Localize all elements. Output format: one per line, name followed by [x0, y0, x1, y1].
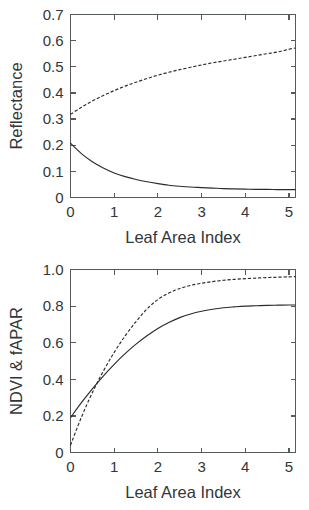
y-axis-tick-label: 0.7 [43, 6, 64, 23]
y-axis-tick-label: 0.2 [43, 136, 64, 153]
x-axis-tick-label: 3 [197, 203, 205, 220]
x-axis-tick-label: 5 [285, 458, 293, 475]
data-series-red-reflectance [71, 143, 296, 190]
y-axis-tick-label: 0.8 [43, 297, 64, 314]
y-axis-tick-label: 0.6 [43, 334, 64, 351]
y-axis-tick-label: 0.6 [43, 32, 64, 49]
data-series-ndvi [71, 305, 296, 418]
chart-panel-reflectance: 00.10.20.30.40.50.60.7012345Leaf Area In… [0, 0, 309, 255]
x-axis-tick-label: 2 [154, 203, 162, 220]
reflectance-plot-svg: 00.10.20.30.40.50.60.7012345Leaf Area In… [0, 0, 309, 255]
x-axis-tick-label: 4 [241, 203, 249, 220]
x-axis-title: Leaf Area Index [125, 228, 241, 246]
x-axis-tick-label: 5 [285, 203, 293, 220]
x-axis-tick-label: 1 [110, 203, 118, 220]
y-axis-tick-label: 0.2 [43, 407, 64, 424]
x-axis-tick-label: 0 [66, 203, 74, 220]
y-axis-tick-label: 0.4 [43, 84, 64, 101]
x-axis-title: Leaf Area Index [125, 483, 241, 501]
x-axis-tick-label: 0 [66, 458, 74, 475]
plot-frame [71, 15, 296, 198]
y-axis-tick-label: 0.1 [43, 163, 64, 180]
figure-two-panel-plot: 00.10.20.30.40.50.60.7012345Leaf Area In… [0, 0, 309, 510]
data-series-nir-reflectance [71, 48, 296, 114]
x-axis-tick-label: 2 [154, 458, 162, 475]
y-axis-tick-label: 1.0 [43, 261, 64, 278]
y-axis-tick-label: 0.5 [43, 58, 64, 75]
y-axis-tick-label: 0 [55, 189, 63, 206]
y-axis-tick-label: 0.4 [43, 371, 64, 388]
plot-frame [71, 270, 296, 453]
y-axis-title: NDVI & fAPAR [7, 307, 25, 415]
y-axis-tick-label: 0 [55, 444, 63, 461]
x-axis-tick-label: 1 [110, 458, 118, 475]
y-axis-tick-label: 0.3 [43, 110, 64, 127]
ndvi-fapar-plot-svg: 00.20.40.60.81.0012345Leaf Area IndexNDV… [0, 255, 309, 510]
x-axis-tick-label: 3 [197, 458, 205, 475]
y-axis-title: Reflectance [7, 62, 25, 149]
data-series-fapar [71, 277, 296, 446]
chart-panel-ndvi-fapar: 00.20.40.60.81.0012345Leaf Area IndexNDV… [0, 255, 309, 510]
x-axis-tick-label: 4 [241, 458, 249, 475]
